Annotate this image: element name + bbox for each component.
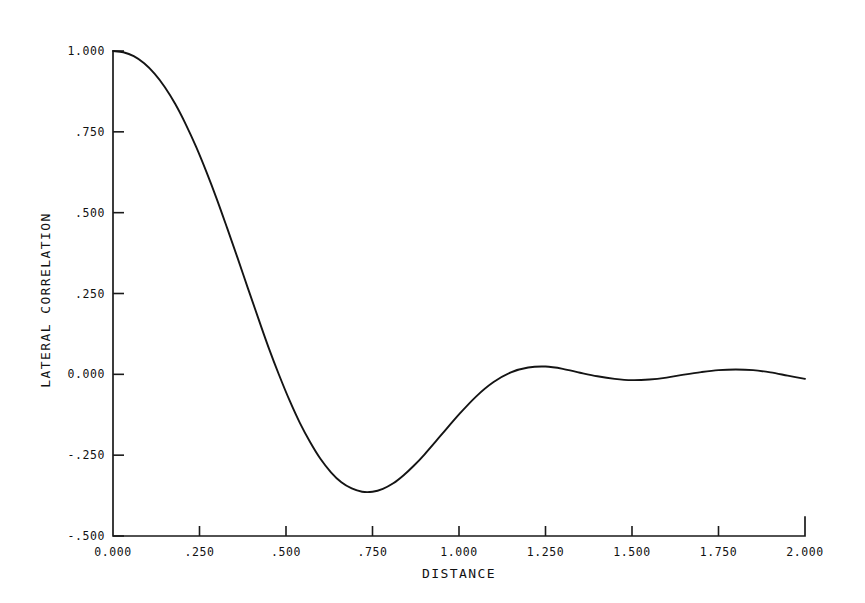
x-axis-tick-labels: 0.000.250.500.7501.0001.2501.5001.7502.0… [94, 545, 824, 559]
x-tick-label: 0.000 [94, 545, 132, 559]
x-axis-title: DISTANCE [422, 566, 496, 581]
y-tick-label: -.250 [67, 448, 105, 462]
x-tick-label: 1.250 [527, 545, 565, 559]
plot-axes [113, 51, 805, 536]
correlation-plot: 1.000.750.500.2500.000-.250-.500 0.000.2… [0, 0, 865, 603]
x-tick-label: 1.000 [440, 545, 478, 559]
y-tick-label: -.500 [67, 529, 105, 543]
x-tick-label: 1.750 [700, 545, 738, 559]
y-tick-label: .250 [75, 287, 105, 301]
lateral-correlation-curve [113, 51, 805, 492]
x-tick-label: 2.000 [786, 545, 824, 559]
y-tick-label: .750 [75, 125, 105, 139]
x-tick-label: 1.500 [613, 545, 651, 559]
x-axis-ticks [200, 526, 719, 536]
y-axis-ticks [113, 51, 124, 536]
x-tick-label: .250 [184, 545, 214, 559]
x-tick-label: .750 [357, 545, 387, 559]
y-axis-title: LATERAL CORRELATION [38, 212, 53, 387]
y-tick-label: .500 [75, 206, 105, 220]
y-tick-label: 1.000 [67, 44, 105, 58]
figure-canvas: 1.000.750.500.2500.000-.250-.500 0.000.2… [0, 0, 865, 603]
y-tick-label: 0.000 [67, 367, 105, 381]
y-axis-tick-labels: 1.000.750.500.2500.000-.250-.500 [67, 44, 105, 543]
x-tick-label: .500 [271, 545, 301, 559]
